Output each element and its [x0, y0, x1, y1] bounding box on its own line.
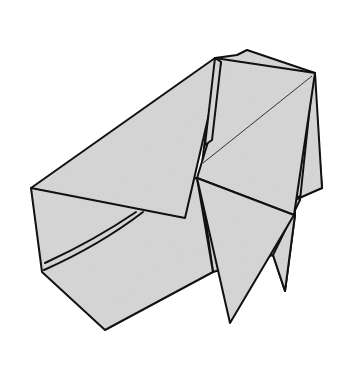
origami-diagram: [0, 0, 342, 366]
